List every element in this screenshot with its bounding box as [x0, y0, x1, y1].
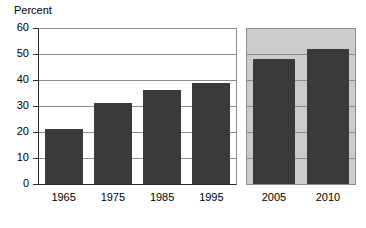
- y-tick-label: 40: [0, 74, 29, 85]
- bar: [45, 129, 83, 184]
- bar: [307, 49, 349, 184]
- bar: [253, 59, 295, 184]
- y-tick-label: 10: [0, 152, 29, 163]
- historical-panel: [38, 28, 237, 185]
- x-tick-label: 1985: [138, 191, 187, 204]
- bar: [143, 90, 181, 184]
- gridline: [39, 28, 236, 29]
- gridline: [39, 54, 236, 55]
- gridline: [39, 80, 236, 81]
- x-tick-label: 1975: [88, 191, 137, 204]
- gridline: [247, 28, 355, 29]
- y-tick-label: 0: [0, 178, 29, 189]
- y-tick-label: 50: [0, 48, 29, 59]
- y-axis-title: Percent: [14, 4, 52, 17]
- bar: [192, 83, 230, 184]
- x-tick-label: 2005: [247, 191, 301, 204]
- y-tick-label: 30: [0, 100, 29, 111]
- recent-panel: [246, 28, 356, 185]
- bar: [94, 103, 132, 184]
- x-tick-label: 1995: [187, 191, 236, 204]
- y-tick-label: 20: [0, 126, 29, 137]
- y-tick-label: 60: [0, 22, 29, 33]
- bar-chart: Percent 6050403020100 196519751985199520…: [0, 0, 366, 228]
- x-tick-label: 2010: [301, 191, 355, 204]
- x-tick-label: 1965: [39, 191, 88, 204]
